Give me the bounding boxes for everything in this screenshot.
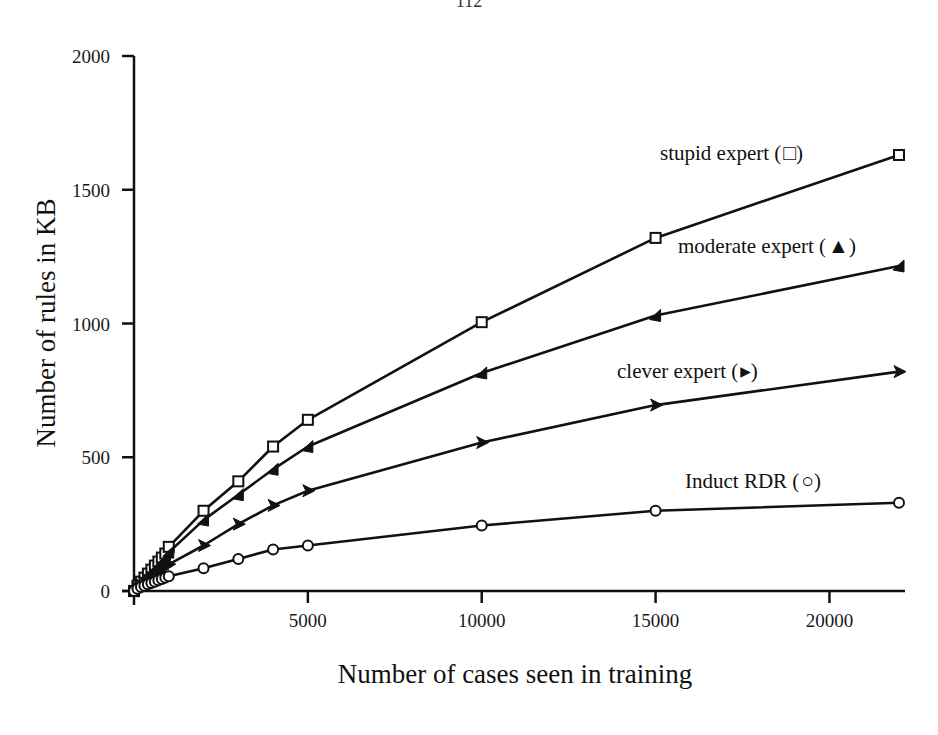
x-tick-label: 5000 <box>289 610 327 631</box>
x-tick-label: 15000 <box>632 610 680 631</box>
series-induct-rdr <box>129 498 904 596</box>
label-moderate-expert: moderate expert (▲) <box>678 234 856 258</box>
y-axis-title: Number of rules in KB <box>31 199 61 448</box>
series-group <box>128 150 906 597</box>
triangle-icon: ▲ <box>828 234 849 258</box>
series-stupid-expert <box>129 150 904 596</box>
label-stupid-expert: stupid expert (□) <box>660 141 803 165</box>
y-tick-label: 1500 <box>72 180 110 201</box>
label-induct-rdr: Induct RDR (○) <box>685 469 821 493</box>
y-tick-label: 500 <box>82 447 111 468</box>
y-tick-label: 2000 <box>72 46 110 67</box>
y-tick-label: 1000 <box>72 314 110 335</box>
x-axis-title: Number of cases seen in training <box>338 659 693 689</box>
label-clever-expert: clever expert (▸) <box>617 359 758 383</box>
circle-icon: ○ <box>801 469 814 493</box>
x-tick-label: 20000 <box>806 610 854 631</box>
line-chart: 05001000150020005000100001500020000 stup… <box>0 0 938 735</box>
axes: 05001000150020005000100001500020000 <box>72 46 905 631</box>
series-moderate-expert <box>128 260 904 597</box>
y-tick-label: 0 <box>101 581 111 602</box>
x-tick-label: 10000 <box>458 610 506 631</box>
square-icon: □ <box>783 141 796 165</box>
triangle-right-icon: ▸ <box>740 359 751 383</box>
